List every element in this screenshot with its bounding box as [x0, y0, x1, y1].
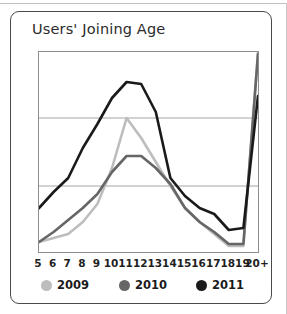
legend-swatch-icon-2011 [196, 280, 207, 291]
legend-item-2010[interactable]: 2010 [119, 278, 167, 292]
x-tick-label-8: 8 [78, 257, 85, 269]
legend-item-2009[interactable]: 2009 [41, 278, 89, 292]
chart-card: Users' Joining Age 567891011121314151617… [10, 11, 272, 304]
legend-swatch-icon-2010 [119, 280, 130, 291]
x-tick-label-18: 18 [220, 257, 235, 269]
x-tick-label-16: 16 [191, 257, 206, 269]
legend-label-2011: 2011 [212, 278, 244, 292]
page-title: Users' Joining Age [32, 21, 165, 37]
legend-swatch-icon-2009 [41, 280, 52, 291]
x-tick-label-12: 12 [133, 257, 148, 269]
legend-item-2011[interactable]: 2011 [196, 278, 244, 292]
x-tick-label-10: 10 [104, 257, 119, 269]
line-chart-svg [39, 52, 258, 252]
x-tick-label-5: 5 [34, 257, 41, 269]
x-tick-label-13: 13 [147, 257, 162, 269]
x-tick-label-9: 9 [93, 257, 100, 269]
x-tick-label-17: 17 [206, 257, 221, 269]
legend-label-2009: 2009 [57, 278, 89, 292]
x-tick-label-7: 7 [64, 257, 71, 269]
x-tick-label-14: 14 [162, 257, 177, 269]
x-tick-label-20plus: 20+ [245, 257, 268, 269]
plot-area [38, 51, 259, 253]
x-tick-label-15: 15 [177, 257, 192, 269]
page-right-rule [286, 3, 287, 314]
legend-label-2010: 2010 [135, 278, 167, 292]
x-tick-label-11: 11 [118, 257, 133, 269]
series-lines [39, 52, 258, 246]
chart-legend: 200920102011 [33, 278, 253, 298]
x-tick-label-6: 6 [49, 257, 56, 269]
x-axis-tick-labels: 567891011121314151617181920+ [31, 257, 271, 273]
series-line-2011 [39, 82, 258, 230]
